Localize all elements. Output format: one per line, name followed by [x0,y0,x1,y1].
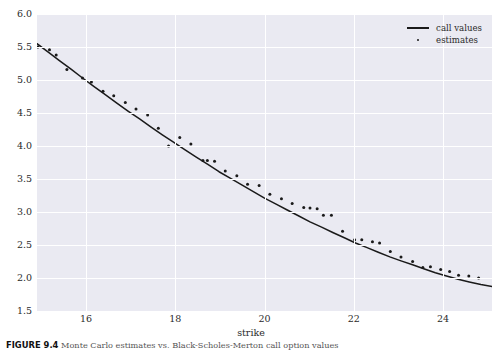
x-axis-tick-label: 24 [423,314,463,324]
x-axis-tick-label: 22 [334,314,374,324]
y-axis-tick-label: 4.5 [2,108,32,118]
figure-caption: FIGURE 9.4 Monte Carlo estimates vs. Bla… [6,340,502,350]
x-axis-tick-label: 20 [245,314,285,324]
x-axis-title: strike [0,327,502,338]
figure-caption-text: Monte Carlo estimates vs. Black-Scholes-… [61,340,339,350]
y-axis-tick-label: 5.0 [2,75,32,85]
y-axis-tick-label: 2.5 [2,240,32,250]
y-axis-tick-label: 6.0 [2,9,32,19]
y-axis-tick-label: 1.5 [2,306,32,316]
y-axis-tick-label: 2.0 [2,273,32,283]
figure-caption-label: FIGURE 9.4 [6,340,58,350]
y-axis-tick-label: 3.5 [2,174,32,184]
x-axis-tick-label: 16 [66,314,106,324]
y-axis-tick-label: 5.5 [2,42,32,52]
y-axis-tick-label: 3.0 [2,207,32,217]
x-axis-tick-label: 18 [155,314,195,324]
y-axis-tick-label: 4.0 [2,141,32,151]
